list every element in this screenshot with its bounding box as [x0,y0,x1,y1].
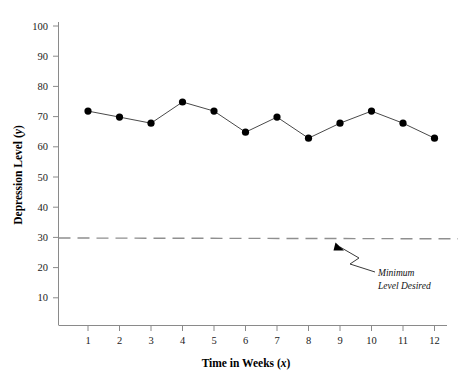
x-tick-label-7: 7 [274,335,279,346]
x-tick-label-9: 9 [337,335,342,346]
data-point-week-6 [242,129,249,136]
data-point-week-9 [336,120,343,127]
x-tick-label-2: 2 [117,335,122,346]
y-tick-label-40: 40 [38,202,49,213]
annotation-label-line-1: Minimum [377,268,415,278]
annotation-label-line-2: Level Desired [377,281,431,291]
y-axis-title-text: Depression Level [12,141,25,225]
x-axis-title-text: Time in Weeks [202,357,275,369]
x-tick-label-1: 1 [85,335,90,346]
y-tick-label-50: 50 [38,172,49,183]
x-tick-label-10: 10 [366,335,377,346]
data-point-week-1 [84,108,91,115]
data-point-week-5 [210,108,217,115]
y-tick-label-100: 100 [32,21,48,32]
x-tick-label-3: 3 [148,335,153,346]
data-point-week-2 [116,114,123,121]
y-axis-title: Depression Level (y) [12,125,25,225]
data-point-week-4 [179,98,186,105]
y-tick-label-60: 60 [38,141,49,152]
data-point-week-12 [431,135,438,142]
x-tick-label-4: 4 [180,335,186,346]
x-tick-label-8: 8 [306,335,311,346]
data-point-week-10 [368,108,375,115]
data-point-week-11 [399,120,406,127]
chart-figure: 100 90 80 70 60 50 40 30 20 10 1 [0,0,461,387]
y-tick-label-20: 20 [38,262,49,273]
y-tick-label-30: 30 [38,232,49,243]
x-tick-label-6: 6 [243,335,248,346]
data-point-week-8 [305,135,312,142]
x-axis-title: Time in Weeks (x) [202,357,291,370]
data-point-week-7 [273,114,280,121]
y-tick-label-90: 90 [38,51,49,62]
y-tick-label-80: 80 [38,81,49,92]
y-tick-label-70: 70 [38,111,49,122]
x-tick-label-12: 12 [429,335,440,346]
x-tick-label-11: 11 [398,335,408,346]
chart-background [0,0,461,387]
x-tick-label-5: 5 [211,335,216,346]
y-tick-label-10: 10 [38,292,49,303]
data-point-week-3 [147,120,154,127]
depression-level-line-chart: 100 90 80 70 60 50 40 30 20 10 1 [0,0,461,387]
